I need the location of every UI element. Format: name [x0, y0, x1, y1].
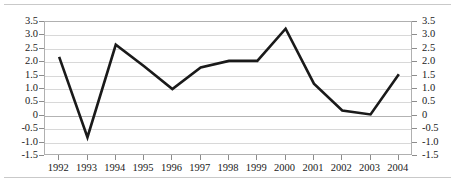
y-axis-right-tick-label: 0	[422, 109, 427, 120]
y-axis-left-tick-label: 0.5	[25, 95, 38, 106]
y-axis-left-tick-mark	[39, 75, 44, 76]
y-axis-right-tick-mark	[412, 34, 417, 35]
y-axis-left-tick-label: -1.0	[21, 136, 38, 147]
y-axis-right-tick-mark	[412, 48, 417, 49]
y-axis-left-tick-label: 0	[33, 109, 38, 120]
plot-area	[44, 21, 412, 155]
x-axis-tick-mark	[285, 155, 286, 160]
x-axis-tick-label: 2004	[378, 162, 418, 174]
x-axis-tick-mark	[341, 155, 342, 160]
y-axis-left-tick-label: 3.5	[25, 15, 38, 26]
y-axis-right-tick-label: 3.0	[422, 28, 435, 39]
y-axis-right-tick-label: -1.0	[422, 136, 439, 147]
x-axis-tick-mark	[115, 155, 116, 160]
y-axis-left-tick-mark	[39, 155, 44, 156]
x-axis-tick-mark	[171, 155, 172, 160]
y-axis-right-tick-mark	[412, 101, 417, 102]
y-axis-left-tick-label: 2.0	[25, 55, 38, 66]
top-divider-rule	[4, 4, 451, 5]
y-axis-right-tick-mark	[412, 88, 417, 89]
y-axis-left-tick-mark	[39, 48, 44, 49]
chart-figure: 3.53.02.52.01.51.00.50-0.5-1.0-1.5 3.53.…	[0, 0, 455, 185]
y-axis-right-tick-mark	[412, 61, 417, 62]
y-axis-right-tick-label: -1.5	[422, 149, 439, 160]
data-line-series	[45, 22, 413, 156]
y-axis-right-tick-label: 2.5	[422, 42, 435, 53]
x-axis-tick-mark	[398, 155, 399, 160]
y-axis-left-tick-mark	[39, 115, 44, 116]
y-axis-left-tick-label: -1.5	[21, 149, 38, 160]
x-axis-tick-mark	[58, 155, 59, 160]
x-axis-tick-mark	[87, 155, 88, 160]
x-axis-tick-mark	[313, 155, 314, 160]
y-axis-right-tick-mark	[412, 128, 417, 129]
y-axis-right-tick-mark	[412, 21, 417, 22]
x-axis-tick-mark	[256, 155, 257, 160]
y-axis-right-tick-label: 1.5	[422, 69, 435, 80]
y-axis-right-tick-mark	[412, 75, 417, 76]
y-axis-left-tick-label: 3.0	[25, 28, 38, 39]
x-axis-tick-mark	[228, 155, 229, 160]
y-axis-left-tick-mark	[39, 88, 44, 89]
y-axis-left-tick-mark	[39, 21, 44, 22]
x-axis-tick-mark	[143, 155, 144, 160]
x-axis-tick-mark	[200, 155, 201, 160]
y-axis-left-tick-mark	[39, 128, 44, 129]
y-axis-right-tick-label: 3.5	[422, 15, 435, 26]
y-axis-right-tick-mark	[412, 115, 417, 116]
y-axis-right-tick-label: -0.5	[422, 122, 439, 133]
y-axis-left-tick-mark	[39, 34, 44, 35]
y-axis-left-tick-mark	[39, 61, 44, 62]
y-axis-left-tick-mark	[39, 142, 44, 143]
y-axis-left-tick-label: 1.0	[25, 82, 38, 93]
y-axis-left-tick-label: 1.5	[25, 69, 38, 80]
y-axis-right-tick-mark	[412, 142, 417, 143]
bottom-divider-rule	[4, 177, 451, 178]
y-axis-left-tick-label: 2.5	[25, 42, 38, 53]
y-axis-right-tick-mark	[412, 155, 417, 156]
y-axis-right-tick-label: 2.0	[422, 55, 435, 66]
y-axis-right-tick-label: 1.0	[422, 82, 435, 93]
y-axis-left-tick-mark	[39, 101, 44, 102]
y-axis-left-tick-label: -0.5	[21, 122, 38, 133]
y-axis-right-tick-label: 0.5	[422, 95, 435, 106]
x-axis-tick-mark	[370, 155, 371, 160]
